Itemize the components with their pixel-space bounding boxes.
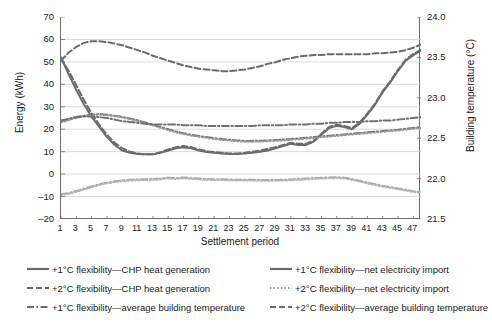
x-axis-tick-label: 39 <box>343 223 359 233</box>
y-axis-left-tick-label: 20 <box>26 124 54 134</box>
y-axis-left-tick-label: 60 <box>26 34 54 44</box>
y-axis-left-tick-label: –10 <box>26 192 54 202</box>
chart-canvas <box>61 17 421 219</box>
legend-item[interactable]: +2°C flexibility—average building temper… <box>270 298 492 316</box>
x-axis-tick-label: 11 <box>129 223 145 233</box>
y-axis-left-tick-label: 40 <box>26 79 54 89</box>
x-axis-tick-label: 31 <box>282 223 298 233</box>
series-line <box>61 41 421 71</box>
x-axis-tick-label: 27 <box>251 223 267 233</box>
series-line <box>61 114 421 141</box>
y-axis-right-title: Building temperature (°C) <box>465 26 476 166</box>
legend-line-swatch <box>270 264 292 274</box>
y-axis-right-tick-label: 22.0 <box>427 174 457 184</box>
plot-area <box>60 17 420 219</box>
legend-item-label: +1°C flexibility—net electricity import <box>295 264 449 275</box>
legend-item-label: +1°C flexibility—average building temper… <box>52 302 245 313</box>
y-axis-right-tick-label: 23.5 <box>427 52 457 62</box>
legend-line-swatch <box>27 264 49 274</box>
y-axis-left-tick-label: 0 <box>26 169 54 179</box>
x-axis-tick-label: 1 <box>52 223 68 233</box>
x-axis-tick-label: 29 <box>266 223 282 233</box>
x-axis-tick-label: 41 <box>358 223 374 233</box>
y-axis-right-tick-label: 21.5 <box>427 214 457 224</box>
x-axis-tick-label: 45 <box>389 223 405 233</box>
y-axis-left-title: Energy (kWh) <box>14 53 25 153</box>
x-axis-tick-label: 13 <box>144 223 160 233</box>
x-axis-tick-label: 21 <box>205 223 221 233</box>
y-axis-left-tick-label: 50 <box>26 57 54 67</box>
legend-item-label: +1°C flexibility—CHP heat generation <box>52 264 210 275</box>
x-axis-tick-label: 9 <box>113 223 129 233</box>
y-axis-right-tick-label: 24.0 <box>427 12 457 22</box>
legend-line-swatch <box>27 283 49 293</box>
chart-legend: +1°C flexibility—CHP heat generation+2°C… <box>22 260 472 318</box>
x-axis-tick-label: 25 <box>236 223 252 233</box>
x-axis-tick-label: 5 <box>83 223 99 233</box>
series-line <box>61 177 421 194</box>
chart-figure: 706050403020100–10–20 24.023.523.022.522… <box>0 0 492 322</box>
legend-item[interactable]: +2°C flexibility—CHP heat generation <box>27 279 272 297</box>
legend-line-swatch <box>270 283 292 293</box>
x-axis-tick-label: 17 <box>175 223 191 233</box>
series-line <box>61 51 421 155</box>
series-line <box>61 50 421 155</box>
x-axis-tick-label: 23 <box>221 223 237 233</box>
x-axis-tick-label: 7 <box>98 223 114 233</box>
legend-item-label: +2°C flexibility—CHP heat generation <box>52 283 210 294</box>
x-axis-tick-label: 47 <box>404 223 420 233</box>
y-axis-left-tick-label: 70 <box>26 12 54 22</box>
series-line <box>61 116 421 126</box>
x-axis-tick-label: 3 <box>67 223 83 233</box>
legend-item[interactable]: +2°C flexibility—net electricity import <box>270 279 492 297</box>
y-axis-left-tick-label: 30 <box>26 102 54 112</box>
y-axis-left-tick-label: 10 <box>26 147 54 157</box>
legend-item-label: +2°C flexibility—average building temper… <box>295 302 488 313</box>
y-axis-right-tick-label: 22.5 <box>427 133 457 143</box>
x-axis-tick-label: 33 <box>297 223 313 233</box>
legend-line-swatch <box>27 302 49 312</box>
data-series-group <box>61 41 421 195</box>
y-axis-right-tick-label: 23.0 <box>427 93 457 103</box>
legend-line-swatch <box>270 302 292 312</box>
x-axis-tick-label: 37 <box>328 223 344 233</box>
x-axis-tick-label: 19 <box>190 223 206 233</box>
legend-item-label: +2°C flexibility—net electricity import <box>295 283 449 294</box>
y-axis-left-tick-label: –20 <box>26 214 54 224</box>
legend-item[interactable]: +1°C flexibility—CHP heat generation <box>27 260 272 278</box>
x-axis-title: Settlement period <box>60 236 420 247</box>
legend-item[interactable]: +1°C flexibility—average building temper… <box>27 298 272 316</box>
gridlines <box>61 39 421 196</box>
legend-item[interactable]: +1°C flexibility—net electricity import <box>270 260 492 278</box>
x-axis-tick-label: 15 <box>159 223 175 233</box>
axis-ticks <box>61 17 421 219</box>
x-axis-tick-label: 35 <box>312 223 328 233</box>
x-axis-tick-label: 43 <box>374 223 390 233</box>
